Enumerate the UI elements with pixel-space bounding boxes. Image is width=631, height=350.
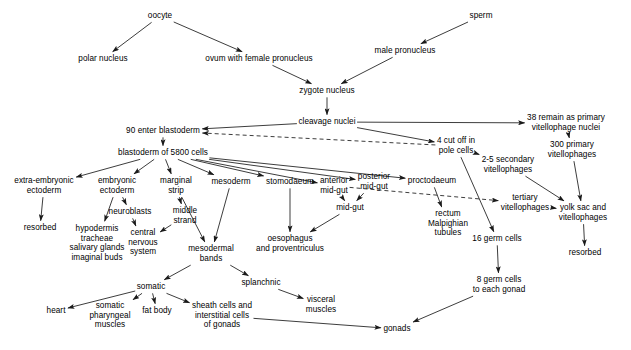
node-tertiary_vitello: tertiary vitellophages bbox=[501, 193, 549, 212]
node-germ_8: 8 germ cells to each gonad bbox=[473, 275, 526, 294]
node-blastoderm: blastoderm of 5800 cells bbox=[118, 148, 208, 158]
node-somatic: somatic bbox=[137, 282, 166, 292]
node-enter_blastoderm: 90 enter blastoderm bbox=[126, 126, 200, 136]
node-hypodermis: hypodermis tracheae salivary glands imag… bbox=[70, 224, 125, 263]
node-zygote_nucleus: zygote nucleus bbox=[299, 86, 354, 96]
node-anterior_midgut: anterior mid-gut bbox=[320, 176, 348, 195]
node-primary_300: 300 primary vitellophages bbox=[548, 140, 596, 159]
node-cns: central nervous system bbox=[128, 228, 157, 257]
node-rectum: rectum Malpighian tubules bbox=[428, 209, 468, 238]
node-posterior_midgut: posterior mid-gut bbox=[358, 172, 390, 191]
node-somatic_pharyngeal: somatic pharyngeal muscles bbox=[89, 301, 130, 330]
node-fat_body: fat body bbox=[142, 306, 172, 316]
node-embryonic_ectoderm: embryonic ectoderm bbox=[98, 176, 136, 195]
node-extra_embryonic: extra-embryonic ectoderm bbox=[14, 176, 73, 195]
node-marginal_strip: marginal strip bbox=[160, 176, 192, 195]
node-resorbed_right: resorbed bbox=[569, 248, 602, 258]
node-stomodaeum: stomodaeum bbox=[266, 177, 314, 187]
node-oocyte: oocyte bbox=[148, 11, 172, 21]
node-layer: oocytespermpolar nucleusovum with female… bbox=[0, 0, 631, 350]
node-primary_nuclei: 38 remain as primary vitellophage nuclei bbox=[527, 113, 605, 132]
node-cleavage_nuclei: cleavage nuclei bbox=[298, 117, 355, 127]
node-gonads: gonads bbox=[383, 324, 410, 334]
node-heart: heart bbox=[47, 306, 66, 316]
node-ovum: ovum with female pronucleus bbox=[205, 54, 312, 64]
node-neuroblasts: neuroblasts bbox=[109, 207, 152, 217]
node-male_pronucleus: male pronucleus bbox=[375, 46, 436, 56]
node-midgut: mid-gut bbox=[336, 203, 364, 213]
node-sheath_cells: sheath cells and interstitial cells of g… bbox=[192, 301, 252, 330]
node-sperm: sperm bbox=[470, 11, 493, 21]
node-middle_strand: middle strand bbox=[173, 206, 197, 225]
node-germ_16: 16 germ cells bbox=[472, 234, 521, 244]
fate-map-diagram: oocytespermpolar nucleusovum with female… bbox=[0, 0, 631, 350]
node-splanchnic: splanchnic bbox=[241, 278, 280, 288]
node-mesoderm: mesoderm bbox=[211, 177, 250, 187]
node-proctodaeum: proctodaeum bbox=[408, 176, 456, 186]
node-resorbed_left: resorbed bbox=[24, 223, 57, 233]
node-polar_nucleus: polar nucleus bbox=[78, 54, 127, 64]
node-mesodermal_bands: mesodermal bands bbox=[188, 244, 234, 263]
node-yolk_sac: yolk sac and vitellophages bbox=[559, 203, 607, 222]
node-pole_cells: 4 cut off in pole cells bbox=[437, 136, 475, 155]
node-secondary_vitello: 2-5 secondary vitellophages bbox=[482, 155, 535, 174]
node-oesophagus: oesophagus and proventriculus bbox=[256, 234, 324, 253]
node-visceral_muscles: visceral muscles bbox=[306, 295, 336, 314]
